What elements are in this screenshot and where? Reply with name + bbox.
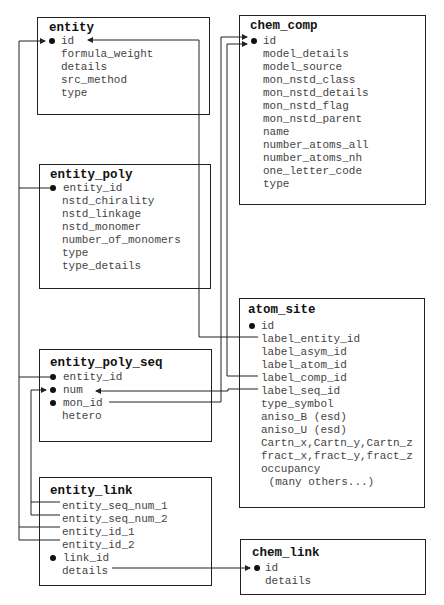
relationship-connectors <box>0 0 444 605</box>
